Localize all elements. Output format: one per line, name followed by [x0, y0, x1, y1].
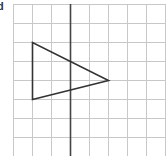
- grid-diagram: [0, 0, 166, 156]
- grid-lines: [13, 4, 166, 156]
